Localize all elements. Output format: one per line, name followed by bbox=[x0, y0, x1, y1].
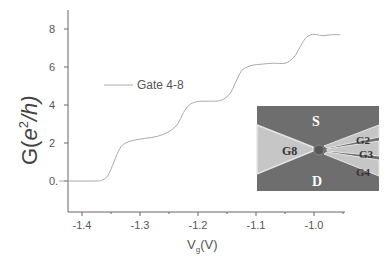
x-tick-label: -1.4 bbox=[73, 219, 92, 231]
inset-device-image: S D G8 G2 G3 G4 bbox=[257, 106, 379, 191]
x-ticks: -1.4-1.3-1.2-1.1-1.0 bbox=[73, 212, 343, 231]
y-tick-label: 6 bbox=[49, 61, 55, 73]
inset-label-g4: G4 bbox=[356, 166, 371, 178]
x-tick-label: -1.0 bbox=[305, 219, 324, 231]
inset-label-d: D bbox=[312, 174, 322, 189]
conductance-chart: 0.2468 -1.4-1.3-1.2-1.1-1.0 G(e2/h) Vg(V… bbox=[0, 0, 387, 269]
y-tick-label: 4 bbox=[49, 99, 55, 111]
x-axis-label: Vg(V) bbox=[187, 237, 217, 254]
inset-label-g8: G8 bbox=[282, 144, 297, 158]
inset-label-s: S bbox=[312, 114, 320, 129]
legend-label: Gate 4-8 bbox=[137, 78, 184, 92]
y-tick-label: 2 bbox=[49, 137, 55, 149]
y-tick-label: 8 bbox=[49, 23, 55, 35]
y-axis-label: G(e2/h) bbox=[16, 95, 42, 165]
y-tick-label: 0. bbox=[49, 175, 58, 187]
quantum-dot bbox=[314, 145, 324, 155]
y-ticks: 0.2468 bbox=[49, 23, 68, 187]
legend: Gate 4-8 bbox=[104, 78, 184, 92]
inset-label-g3: G3 bbox=[359, 148, 374, 160]
x-tick-label: -1.2 bbox=[189, 219, 208, 231]
x-tick-label: -1.3 bbox=[131, 219, 150, 231]
x-tick-label: -1.1 bbox=[247, 219, 266, 231]
inset-label-g2: G2 bbox=[356, 134, 371, 146]
